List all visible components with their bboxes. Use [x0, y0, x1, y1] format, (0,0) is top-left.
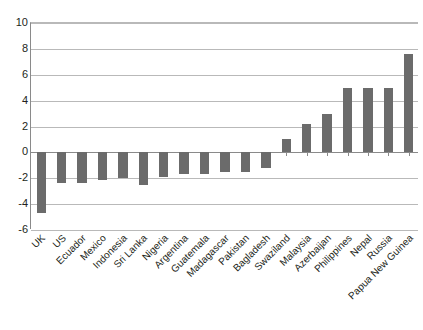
bar [37, 152, 46, 213]
bar [220, 152, 229, 171]
bar [77, 152, 86, 183]
bar [57, 152, 66, 183]
bar [343, 88, 352, 153]
bar [384, 88, 393, 153]
bar-chart: 1086420-2-4-6 UKUSEcuadorMexicoIndonesia… [0, 0, 423, 330]
bar [139, 152, 148, 184]
y-axis-tick-labels: 1086420-2-4-6 [0, 0, 28, 330]
bar [118, 152, 127, 178]
x-axis-tick-label: UK [30, 233, 47, 250]
bar [159, 152, 168, 177]
y-axis-tick-4: 4 [2, 94, 28, 105]
y-axis-tick-10: 10 [2, 17, 28, 28]
y-axis-tick-6: 6 [2, 68, 28, 79]
bar [200, 152, 209, 174]
y-axis-tick-neg6: -6 [2, 224, 28, 235]
bar-series [31, 23, 418, 229]
bar [98, 152, 107, 179]
bar [302, 124, 311, 152]
bar [241, 152, 250, 171]
y-axis-tick-0: 0 [2, 146, 28, 157]
y-axis-tick-neg4: -4 [2, 198, 28, 209]
bar [282, 139, 291, 152]
x-axis-tick-labels: UKUSEcuadorMexicoIndonesiaSri LankaNiger… [30, 229, 418, 330]
y-axis-tick-2: 2 [2, 120, 28, 131]
bar [179, 152, 188, 174]
y-axis-tick-8: 8 [2, 42, 28, 53]
bar [322, 114, 331, 153]
plot-area [30, 22, 418, 229]
bar [363, 88, 372, 153]
y-axis-tick-neg2: -2 [2, 172, 28, 183]
bar [404, 54, 413, 152]
bar [261, 152, 270, 168]
